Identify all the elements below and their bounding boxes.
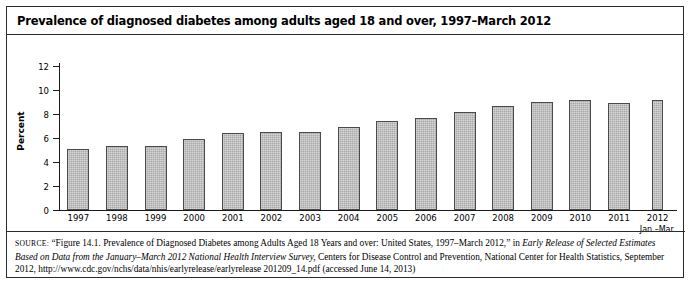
bar-rect — [106, 146, 128, 210]
x-axis-label-1998: 1998 — [98, 213, 137, 224]
figure-title-bar: Prevalence of diagnosed diabetes among a… — [7, 7, 683, 35]
bar-1998 — [98, 146, 137, 210]
x-axis-label-year: 2011 — [608, 213, 630, 223]
x-axis-label-year: 2012 — [647, 213, 669, 223]
bar-2006 — [407, 118, 446, 210]
x-axis-label-year: 1999 — [145, 213, 167, 223]
bar-rect — [652, 100, 663, 210]
bar-2007 — [445, 112, 484, 210]
x-axis-label-year: 2008 — [492, 213, 514, 223]
x-axis-label-2006: 2006 — [407, 213, 446, 224]
x-axis-label-1999: 1999 — [136, 213, 175, 224]
bar-rect — [67, 149, 89, 210]
bar-rect — [183, 139, 205, 210]
x-axis-label-2009: 2009 — [523, 213, 562, 224]
x-axis-label-2003: 2003 — [291, 213, 330, 224]
source-note-text: SOURCE: “Figure 14.1. Prevalence of Diag… — [15, 237, 677, 276]
figure-card: Prevalence of diagnosed diabetes among a… — [6, 6, 684, 278]
y-axis-tick-label: 0 — [44, 206, 49, 216]
x-axis-label-year: 2004 — [338, 213, 360, 223]
bar-2005 — [368, 121, 407, 210]
source-label: SOURCE: — [15, 239, 49, 248]
bar-rect — [608, 103, 630, 210]
x-axis-label-2004: 2004 — [329, 213, 368, 224]
bar-1997 — [59, 149, 98, 210]
bar-2004 — [329, 127, 368, 210]
chart-plot-area: Percent 024681012 1997199819992000200120… — [7, 35, 685, 231]
x-axis-label-year: 1998 — [106, 213, 128, 223]
x-axis-label-year: 2009 — [531, 213, 553, 223]
bar-rect — [260, 132, 282, 210]
x-axis-label-year: 1997 — [67, 213, 89, 223]
bar-2011 — [600, 103, 639, 210]
page-title: Prevalence of diagnosed diabetes among a… — [17, 14, 551, 28]
y-axis-tick-label: 2 — [44, 182, 49, 192]
bar-2008 — [484, 106, 523, 210]
bar-1999 — [136, 146, 175, 210]
bar-rect — [454, 112, 476, 210]
x-axis-label-2000: 2000 — [175, 213, 214, 224]
y-axis-tick-label: 8 — [44, 110, 49, 120]
y-axis-tick-label: 10 — [38, 86, 49, 96]
bar-rect — [222, 133, 244, 210]
x-axis-label-1997: 1997 — [59, 213, 98, 224]
y-axis-tick-label: 6 — [44, 134, 49, 144]
bar-2003 — [291, 132, 330, 210]
y-axis-tick-label: 4 — [44, 158, 49, 168]
source-part-one: “Figure 14.1. Prevalence of Diagnosed Di… — [49, 238, 522, 248]
bar-rect — [338, 127, 360, 210]
x-axis-label-2005: 2005 — [368, 213, 407, 224]
x-axis-label-year: 2001 — [222, 213, 244, 223]
x-axis-label-2011: 2011 — [600, 213, 639, 224]
bar-2002 — [252, 132, 291, 210]
x-axis-label-year: 2007 — [454, 213, 476, 223]
x-axis-label-year: 2003 — [299, 213, 321, 223]
x-axis-label-2001: 2001 — [214, 213, 253, 224]
bar-2009 — [523, 102, 562, 210]
x-axis-label-year: 2000 — [183, 213, 205, 223]
bar-rect — [531, 102, 553, 210]
bar-2010 — [561, 100, 600, 210]
bar-2000 — [175, 139, 214, 210]
x-axis-label-2007: 2007 — [445, 213, 484, 224]
bar-rect — [145, 146, 167, 210]
y-axis-title: Percent — [16, 111, 26, 150]
x-axis-label-year: 2006 — [415, 213, 437, 223]
x-axis-label-2010: 2010 — [561, 213, 600, 224]
bar-rect — [376, 121, 398, 210]
bars-layer — [59, 35, 677, 211]
bar-2012 — [638, 100, 677, 210]
x-axis-label-year: 2002 — [261, 213, 283, 223]
x-axis-label-2008: 2008 — [484, 213, 523, 224]
source-note: SOURCE: “Figure 14.1. Prevalence of Diag… — [7, 231, 685, 278]
bar-rect — [492, 106, 514, 210]
bar-rect — [569, 100, 591, 210]
bar-rect — [415, 118, 437, 210]
x-axis-label-year: 2010 — [570, 213, 592, 223]
bar-rect — [299, 132, 321, 210]
x-axis-label-2002: 2002 — [252, 213, 291, 224]
x-axis-label-year: 2005 — [376, 213, 398, 223]
y-axis-tick-label: 12 — [38, 62, 49, 72]
bar-2001 — [214, 133, 253, 210]
